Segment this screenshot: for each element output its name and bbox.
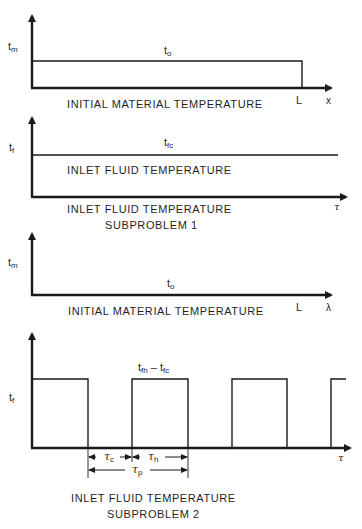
end-marker: L (296, 301, 302, 313)
amplitude-label: tfh – tfc (138, 361, 169, 375)
y-axis-label: tm (8, 256, 18, 270)
diagram-canvas (0, 0, 362, 529)
x-axis-label: x (326, 95, 331, 106)
panel-initial-material-1 (31, 16, 331, 88)
panel-caption: INITIAL MATERIAL TEMPERATURE (68, 305, 264, 317)
square-wave (32, 379, 346, 448)
y-axis-label: tf (9, 141, 14, 155)
panel-inlet-fluid-1 (31, 118, 346, 197)
x-axis-label: τ (334, 201, 340, 212)
panel-inlet-fluid-2 (31, 334, 350, 478)
level-label: to (164, 44, 172, 58)
panel-caption-line1: INLET FLUID TEMPERATURE (71, 492, 236, 504)
tau-c-label: τc (104, 450, 114, 464)
tau-p-label: τp (132, 463, 143, 477)
x-axis-label: λ (326, 302, 331, 313)
y-axis-label: tm (8, 40, 18, 54)
tau-h-label: τh (148, 450, 159, 464)
level-label: tfc (164, 136, 173, 150)
inner-caption: INLET FLUID TEMPERATURE (67, 164, 232, 176)
y-axis-label: tf (9, 391, 14, 405)
panel-caption-line2: SUBPROBLEM 2 (107, 508, 200, 520)
end-marker: L (296, 94, 302, 106)
panel-initial-material-2 (31, 234, 331, 295)
panel-caption: INITIAL MATERIAL TEMPERATURE (67, 98, 263, 110)
panel-caption-line2: SUBPROBLEM 1 (105, 219, 198, 231)
x-axis-label: τ (338, 452, 344, 463)
panel-caption-line1: INLET FLUID TEMPERATURE (67, 203, 232, 215)
material-temperature-profile (32, 61, 302, 88)
level-label: to (167, 277, 175, 291)
